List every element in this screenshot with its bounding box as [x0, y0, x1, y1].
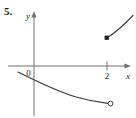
x-axis-label: x [125, 71, 130, 81]
curve-right-branch [108, 16, 134, 38]
x-axis-arrow-icon [125, 63, 132, 68]
open-circle-endpoint [108, 101, 113, 106]
graph-plot: y x 0 2 [0, 0, 136, 118]
math-figure: 5. y x 0 2 [0, 0, 136, 118]
filled-dot-endpoint [105, 36, 109, 40]
y-axis-arrow-icon [31, 11, 36, 18]
x-tick-label-2: 2 [105, 71, 110, 81]
curve-left-branch [18, 72, 108, 103]
y-axis-label: y [25, 11, 30, 21]
